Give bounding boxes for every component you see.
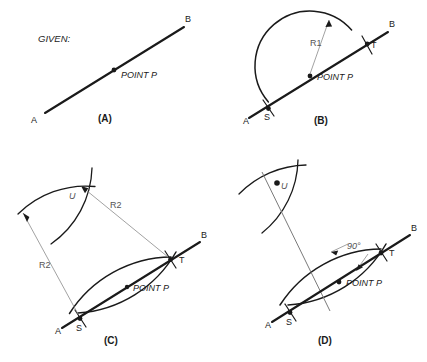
panel-d-label-b: B: [411, 223, 417, 233]
panel-d-labels: A B S T U POINT P 90° (D): [0, 0, 427, 362]
panel-d-label-s: S: [286, 317, 292, 327]
figure-canvas: GIVEN: A B POINT P (A) A B S T POINT P R…: [0, 0, 427, 362]
panel-d-label-angle-90: 90°: [347, 241, 361, 251]
panel-d-label-t: T: [389, 248, 395, 258]
panel-d-caption: (D): [318, 335, 332, 346]
panel-d-label-point-p: POINT P: [346, 278, 382, 288]
panel-d-label-u: U: [281, 181, 288, 191]
panel-d-label-a: A: [265, 320, 271, 330]
